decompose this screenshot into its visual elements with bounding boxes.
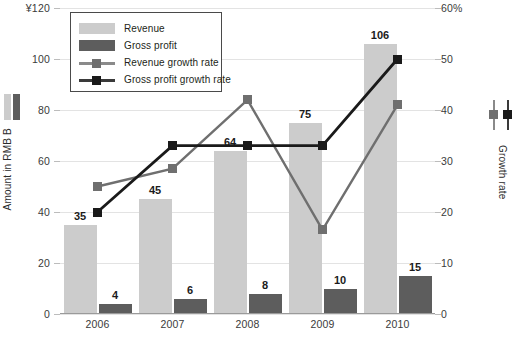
gridline [60,314,435,315]
y2-tick-label: 60% [441,3,487,13]
bar-label-gross-profit: 6 [174,285,207,296]
bar-revenue [289,123,322,314]
y2-tick-mark [435,314,441,315]
legend-item-gross-profit-growth-rate[interactable]: Gross profit growth rate [79,71,213,88]
legend-item-revenue-growth-rate[interactable]: Revenue growth rate [79,54,213,71]
marker-gross-profit-growth-rate [318,141,327,150]
bar-label-revenue: 106 [364,30,397,41]
y2-tick-label: 40 [441,105,487,115]
marker-revenue-growth-rate [168,164,177,173]
revenue-growth-chart: Amount in RMB B Growth rate 020406080100… [0,0,515,348]
y2-tick-label: 20 [441,207,487,217]
y2-tick-mark [435,263,441,264]
y2-tick-label: 30 [441,156,487,166]
y2-tick-mark [435,212,441,213]
y2-tick-mark [435,110,441,111]
legend-item-revenue[interactable]: Revenue [79,20,213,37]
legend-label-revenue-growth-rate: Revenue growth rate [124,57,219,68]
marker-revenue-growth-rate [93,182,102,191]
bar-revenue [64,225,97,314]
y-tick-label: 20 [8,258,50,268]
bar-label-gross-profit: 10 [324,275,357,286]
bar-label-revenue: 35 [64,211,97,222]
gridline [60,8,435,9]
y2-tick-label: 10 [441,258,487,268]
x-axis-label: 2007 [136,318,210,330]
marker-gross-profit-growth-rate [168,141,177,150]
marker-revenue-growth-rate [318,225,327,234]
marker-revenue-growth-rate [393,100,402,109]
y-tick-label: 80 [8,105,50,115]
bar-revenue [364,44,397,314]
gross-profit-line-glyph [503,100,512,130]
legend-swatch-revenue-growth-rate [79,57,115,68]
y-tick-label: 0 [8,309,50,319]
legend-swatch-gross-profit [79,40,115,51]
legend-label-revenue: Revenue [124,23,165,34]
bar-label-gross-profit: 8 [249,280,282,291]
legend-item-gross-profit[interactable]: Gross profit [79,37,213,54]
bar-gross-profit [399,276,432,314]
y-axis-title: Amount in RMB B [2,128,13,210]
x-axis-label: 2006 [61,318,135,330]
y2-axis-title: Growth rate [497,145,508,199]
y-tick-label: 60 [8,156,50,166]
x-axis-line [60,313,435,314]
y-tick-label: 100 [8,54,50,64]
y-tick-label: 40 [8,207,50,217]
marker-revenue-growth-rate [243,95,252,104]
bar-revenue [139,199,172,314]
y-tick-label: ¥120 [8,3,50,13]
bar-label-revenue: 64 [214,137,247,148]
revenue-line-glyph [489,100,498,130]
legend-label-gross-profit-growth-rate: Gross profit growth rate [124,74,231,85]
right-axis-glyphs [489,100,512,130]
bar-label-revenue: 75 [289,109,322,120]
x-axis-label: 2010 [361,318,435,330]
y2-tick-mark [435,161,441,162]
legend-label-gross-profit: Gross profit [124,40,177,51]
bar-gross-profit [324,289,357,315]
y2-tick-label: 0 [441,309,487,319]
x-axis-label: 2009 [286,318,360,330]
bar-label-revenue: 45 [139,185,172,196]
legend-swatch-gross-profit-growth-rate [79,74,115,85]
marker-gross-profit-growth-rate [393,55,402,64]
bar-label-gross-profit: 15 [399,262,432,273]
y2-tick-label: 50 [441,54,487,64]
bar-label-gross-profit: 4 [99,290,132,301]
bar-gross-profit [249,294,282,314]
legend-swatch-revenue [79,23,115,34]
y2-tick-mark [435,8,441,9]
chart-legend: Revenue Gross profit Revenue growth rate… [70,12,222,92]
bar-gross-profit [174,299,207,314]
x-axis-label: 2008 [211,318,285,330]
bar-revenue [214,151,247,314]
y2-tick-mark [435,59,441,60]
